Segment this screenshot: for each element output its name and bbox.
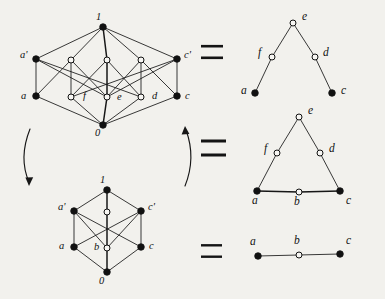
node-label-d: d (329, 142, 335, 154)
node-open (290, 20, 296, 26)
node-label-c: c (149, 240, 154, 251)
lattice-edge (257, 191, 299, 192)
node-label-c: c (346, 194, 351, 206)
node-filled (329, 90, 336, 97)
node-filled (255, 253, 262, 260)
eq-middle (201, 140, 226, 157)
arrow-left (24, 129, 30, 182)
node-label-c: c (185, 90, 190, 101)
lattice-edge (299, 254, 340, 255)
node-label-d: d (152, 90, 158, 101)
equals-bar-lower (201, 154, 226, 157)
node-label-f: f (264, 142, 269, 155)
lattice-edge (258, 255, 299, 256)
lattice-edge (74, 190, 107, 211)
node-label-a: a (250, 235, 256, 247)
node-open (104, 94, 110, 100)
lattice-edge (36, 96, 103, 125)
lattice-edge (107, 211, 141, 248)
node-open (269, 54, 275, 60)
node-filled (100, 122, 107, 129)
lattice-edge (293, 23, 315, 57)
lattice-edge (71, 97, 103, 125)
arrow-right-head-icon (182, 126, 190, 135)
node-label-a-prime: a' (20, 49, 28, 60)
equals-bar-lower (201, 57, 223, 60)
node-label-c: c (346, 234, 351, 246)
node-label-f: f (258, 46, 263, 59)
node-open (68, 57, 74, 63)
node-label-a: a (252, 194, 258, 206)
node-label-e: e (308, 104, 313, 116)
node-filled (33, 93, 40, 100)
labels-layer: 1a'c'afedc01a'c'abc0efdacefdabcabc (20, 10, 351, 286)
node-label-c-prime: c' (148, 201, 156, 212)
node-open (104, 57, 110, 63)
node-label-b: b (294, 234, 300, 246)
lattice-edge (103, 27, 141, 60)
node-open (104, 209, 110, 215)
figure-canvas: 1a'c'afedc01a'c'abc0efdacefdabcabc (0, 0, 385, 299)
arrow-left-head-icon (25, 177, 33, 186)
lattice-edge (299, 117, 320, 153)
node-filled (174, 93, 181, 100)
equals-layer (201, 45, 226, 258)
equals-bar-upper (201, 45, 223, 48)
node-label-c-prime: c' (184, 49, 192, 60)
lattice-edge (315, 57, 332, 93)
arrow-right (185, 130, 191, 186)
lattice-edge (103, 27, 177, 59)
node-label-1: 1 (100, 174, 105, 185)
node-open (104, 245, 110, 251)
node-open (138, 94, 144, 100)
node-label-c: c (341, 84, 346, 96)
equals-bar-upper (201, 140, 226, 143)
node-open (312, 54, 318, 60)
node-label-b: b (294, 195, 300, 207)
node-filled (71, 244, 78, 251)
arrows-layer (24, 126, 191, 186)
lattice-edge (36, 59, 107, 97)
node-label-a: a (21, 90, 26, 101)
lattice-edge (320, 153, 340, 191)
node-label-b: b (94, 241, 99, 252)
node-label-0: 0 (99, 275, 105, 286)
node-filled (337, 188, 344, 195)
lattice-edge (107, 247, 141, 272)
node-label-0: 0 (95, 127, 101, 138)
node-open (296, 114, 302, 120)
equals-bar-upper (201, 244, 222, 246)
eq-bottom (201, 244, 222, 258)
node-filled (138, 208, 145, 215)
node-filled (252, 90, 259, 97)
node-label-e: e (117, 91, 122, 102)
node-filled (138, 244, 145, 251)
eq-top (201, 45, 223, 59)
node-open (274, 150, 280, 156)
lattice-edge (299, 191, 340, 192)
lattice-edge (272, 23, 293, 57)
node-label-1: 1 (96, 11, 101, 22)
lattice-edge (255, 57, 272, 93)
lattice-edge (257, 153, 277, 191)
node-label-a-prime: a' (58, 201, 66, 212)
node-label-a: a (59, 240, 64, 251)
lattice-figure: 1a'c'afedc01a'c'abc0efdacefdabcabc (0, 0, 385, 299)
node-label-f: f (83, 90, 88, 101)
node-label-e: e (302, 10, 307, 22)
lattice-edge (103, 97, 141, 125)
lattice-edge (74, 247, 107, 272)
node-label-d: d (323, 46, 329, 58)
node-label-a: a (241, 84, 247, 96)
lattice-edge (103, 27, 107, 60)
equals-bar-lower (201, 256, 222, 258)
node-filled (337, 251, 344, 258)
lattice-edge (103, 97, 107, 125)
node-open (317, 150, 323, 156)
node-filled (104, 269, 111, 276)
node-open (138, 57, 144, 63)
node-filled (33, 56, 40, 63)
lattice-edge (71, 27, 103, 60)
lattice-edge (36, 27, 103, 59)
node-filled (174, 56, 181, 63)
